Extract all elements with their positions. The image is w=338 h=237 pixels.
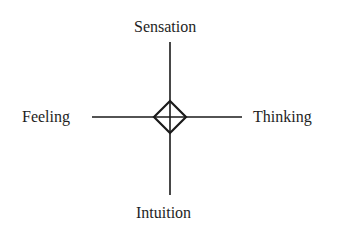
label-thinking: Thinking: [253, 109, 312, 125]
label-sensation: Sensation: [134, 19, 196, 35]
label-feeling: Feeling: [22, 109, 70, 125]
label-intuition: Intuition: [136, 205, 191, 221]
